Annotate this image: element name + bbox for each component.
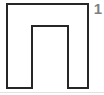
figure-number-label: 1	[94, 0, 102, 17]
figure-canvas: 1	[0, 0, 104, 95]
inverted-u-shape-outline	[7, 4, 88, 88]
shape-figure	[0, 0, 104, 95]
bottom-divider	[0, 92, 104, 93]
